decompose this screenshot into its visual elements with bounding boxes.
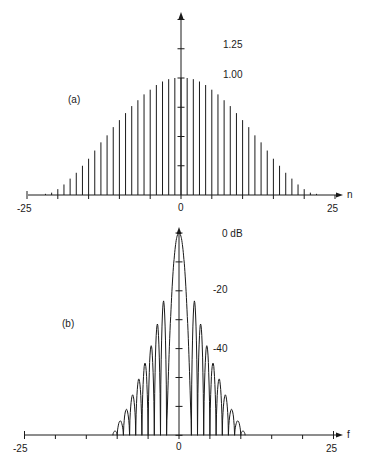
panel-b-x-label-max: 25 (326, 443, 338, 454)
panel-a-x-label-min: -25 (17, 203, 32, 214)
panel-a-y-label-1.00: 1.00 (223, 69, 243, 80)
panel-b-y-label-minus40: -40 (213, 343, 228, 354)
panel-a-chart: (a) 1.25 1.00 -25 0 25 n (17, 12, 353, 214)
panel-a-y-label-1.25: 1.25 (223, 39, 243, 50)
panel-b-x-axis-name: f (347, 429, 350, 440)
figure: (a) 1.25 1.00 -25 0 25 n (b) 0 dB -20 -4… (0, 0, 366, 468)
panel-b-x-arrow-icon (336, 433, 343, 438)
panel-a-x-label-max: 25 (327, 203, 339, 214)
panel-b-y-label-minus20: -20 (213, 284, 228, 295)
panel-a-label: (a) (68, 94, 80, 105)
panel-b-y-label-0db: 0 dB (222, 228, 243, 239)
panel-b-chart: (b) 0 dB -20 -40 -25 0 25 f (13, 227, 350, 454)
panel-a-y-arrow-icon (179, 12, 184, 19)
panel-b-label: (b) (62, 318, 74, 329)
panel-a-x-axis-name: n (347, 189, 353, 200)
panel-b-x-label-zero: 0 (176, 441, 182, 452)
panel-b-x-label-min: -25 (13, 443, 28, 454)
panel-a-x-label-zero: 0 (178, 202, 184, 213)
panel-a-x-arrow-icon (336, 193, 343, 198)
